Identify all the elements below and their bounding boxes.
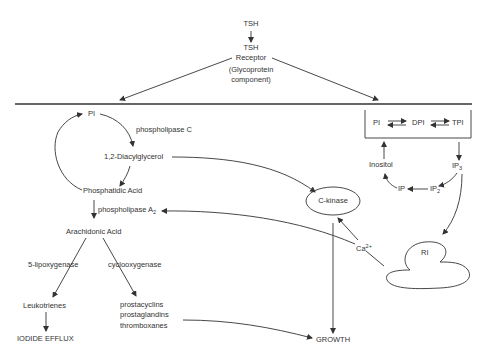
- prostacyclins-label: prostacyclins: [120, 301, 163, 309]
- calcium-label: Ca2+: [356, 244, 372, 253]
- receptor-left-arrow: [120, 58, 232, 100]
- tpi-label: TPI: [452, 119, 464, 127]
- tsh-label: TSH: [244, 20, 259, 28]
- prostaglandins-label: prostaglandins: [120, 311, 169, 319]
- receptor-label-3: (Glycoprotein: [229, 66, 274, 74]
- lipoxygenase-label: 5-lipoxygenase: [28, 261, 78, 269]
- phospholipase-c-label: phospholipase C: [136, 126, 192, 134]
- receptor-right-arrow: [272, 58, 378, 100]
- pi-label: PI: [88, 110, 95, 118]
- dpi-label: DPI: [412, 119, 425, 127]
- diacylglycerol-label: 1,2-Diacylglycerol: [104, 153, 163, 161]
- arachidonic-acid-label: Arachidonic Acid: [66, 228, 121, 236]
- iodide-efflux-label: IODIDE EFFLUX: [17, 335, 74, 343]
- ri-label: RI: [421, 249, 429, 257]
- phosphatidic-acid-label: Phosphatidic Acid: [83, 187, 142, 195]
- phospholipase-a2-label: phospholipase A2: [98, 206, 156, 216]
- growth-label: GROWTH: [316, 336, 350, 344]
- inositol-label: Inositol: [369, 161, 393, 169]
- receptor-label-4: component): [231, 76, 271, 84]
- thromboxanes-label: thromboxanes: [120, 322, 168, 330]
- receptor-label-2: Receptor: [236, 54, 266, 62]
- ip-label: IP: [398, 185, 405, 193]
- ip3-label: IP3: [452, 162, 462, 172]
- leukotrienes-label: Leukotrienes: [23, 302, 66, 310]
- receptor-label-1: TSH: [244, 44, 259, 52]
- ip2-label: IP2: [430, 185, 440, 195]
- cyclooxygenase-label: cyclooxygenase: [108, 261, 161, 269]
- right-pi-label: PI: [373, 119, 380, 127]
- c-kinase-label: C-kinase: [318, 197, 348, 205]
